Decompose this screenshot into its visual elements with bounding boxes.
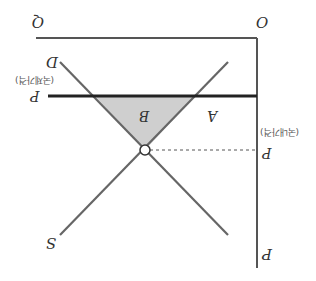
origin-label: O [256, 13, 268, 31]
domestic-price-symbol: P [262, 145, 271, 161]
quantity-label: Q [32, 13, 44, 31]
price-axis-label: P [262, 245, 272, 263]
domestic-price-note: (국내가격) [260, 126, 299, 139]
world-price-label: P [30, 88, 39, 104]
domestic-price-label: P [262, 145, 271, 161]
region-a-label: A [207, 108, 217, 124]
diagram-canvas: O Q P S D B A P (국제가격) P (국내가격) [0, 0, 316, 281]
world-price-note: (국제가격) [15, 74, 54, 87]
supply-label: S [46, 234, 56, 252]
equilibrium-point [140, 145, 150, 155]
region-b-label: B [139, 108, 149, 124]
world-price-symbol: P [30, 88, 39, 104]
demand-label: D [46, 53, 58, 71]
